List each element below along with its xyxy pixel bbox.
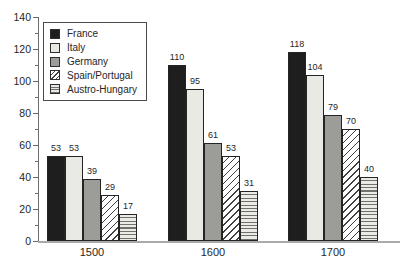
bar-value-label: 39	[77, 166, 107, 177]
bar-value-label: 29	[95, 182, 125, 193]
legend-label: Germany	[67, 56, 108, 68]
y-major-tick	[33, 17, 38, 18]
bar-italy	[186, 89, 204, 241]
bar-value-label: 79	[318, 102, 348, 113]
x-category-label: 1700	[288, 246, 378, 258]
bar-value-label: 95	[180, 76, 210, 87]
legend-item: Spain/Portugal	[50, 70, 137, 82]
legend-label: Italy	[67, 42, 85, 54]
x-axis-baseline	[38, 241, 400, 243]
bar-spain-portugal	[342, 129, 360, 241]
y-tick-label: 140	[0, 11, 31, 23]
y-major-tick	[33, 49, 38, 50]
legend-swatch-icon	[50, 43, 60, 53]
y-minor-tick	[35, 161, 38, 162]
bar-value-label: 17	[113, 201, 143, 212]
legend-item: Austro-Hungary	[50, 84, 137, 96]
bar-italy	[306, 75, 324, 241]
bar-value-label: 53	[216, 143, 246, 154]
y-tick-label: 120	[0, 43, 31, 55]
y-tick-label: 0	[0, 235, 31, 247]
y-minor-tick	[35, 65, 38, 66]
y-minor-tick	[35, 33, 38, 34]
bar-chart: FranceItalyGermanySpain/PortugalAustro-H…	[0, 0, 413, 270]
y-tick-label: 100	[0, 75, 31, 87]
bar-value-label: 70	[336, 116, 366, 127]
y-major-tick	[33, 113, 38, 114]
y-tick-label: 80	[0, 107, 31, 119]
legend-label: France	[67, 28, 98, 40]
y-major-tick	[33, 209, 38, 210]
y-minor-tick	[35, 193, 38, 194]
y-minor-tick	[35, 129, 38, 130]
bar-value-label: 31	[234, 178, 264, 189]
legend: FranceItalyGermanySpain/PortugalAustro-H…	[43, 22, 147, 101]
legend-swatch-icon	[50, 29, 60, 39]
legend-item: Italy	[50, 42, 137, 54]
y-axis-line	[38, 17, 39, 243]
bar-value-label: 104	[300, 62, 330, 73]
bar-france	[288, 52, 306, 241]
y-major-tick	[33, 177, 38, 178]
bar-austro-hungary	[360, 177, 378, 241]
bar-france	[168, 65, 186, 241]
y-tick-label: 40	[0, 171, 31, 183]
bar-spain-portugal	[222, 156, 240, 241]
y-tick-label: 20	[0, 203, 31, 215]
y-tick-label: 60	[0, 139, 31, 151]
bar-germany	[204, 143, 222, 241]
bar-value-label: 61	[198, 130, 228, 141]
bar-austro-hungary	[240, 191, 258, 241]
y-minor-tick	[35, 225, 38, 226]
y-major-tick	[33, 81, 38, 82]
bar-germany	[324, 115, 342, 241]
bar-france	[47, 156, 65, 241]
legend-label: Austro-Hungary	[67, 84, 137, 96]
legend-label: Spain/Portugal	[67, 70, 133, 82]
legend-swatch-icon	[50, 70, 60, 80]
y-major-tick	[33, 145, 38, 146]
bar-value-label: 53	[59, 143, 89, 154]
bar-value-label: 40	[354, 164, 384, 175]
bar-value-label: 118	[282, 39, 312, 50]
bar-austro-hungary	[119, 214, 137, 241]
x-category-label: 1500	[47, 246, 137, 258]
bar-value-label: 110	[162, 52, 192, 63]
legend-item: Germany	[50, 56, 137, 68]
legend-swatch-icon	[50, 84, 60, 94]
legend-item: France	[50, 28, 137, 40]
y-major-tick	[33, 241, 38, 242]
legend-swatch-icon	[50, 57, 60, 67]
y-minor-tick	[35, 97, 38, 98]
x-category-label: 1600	[168, 246, 258, 258]
